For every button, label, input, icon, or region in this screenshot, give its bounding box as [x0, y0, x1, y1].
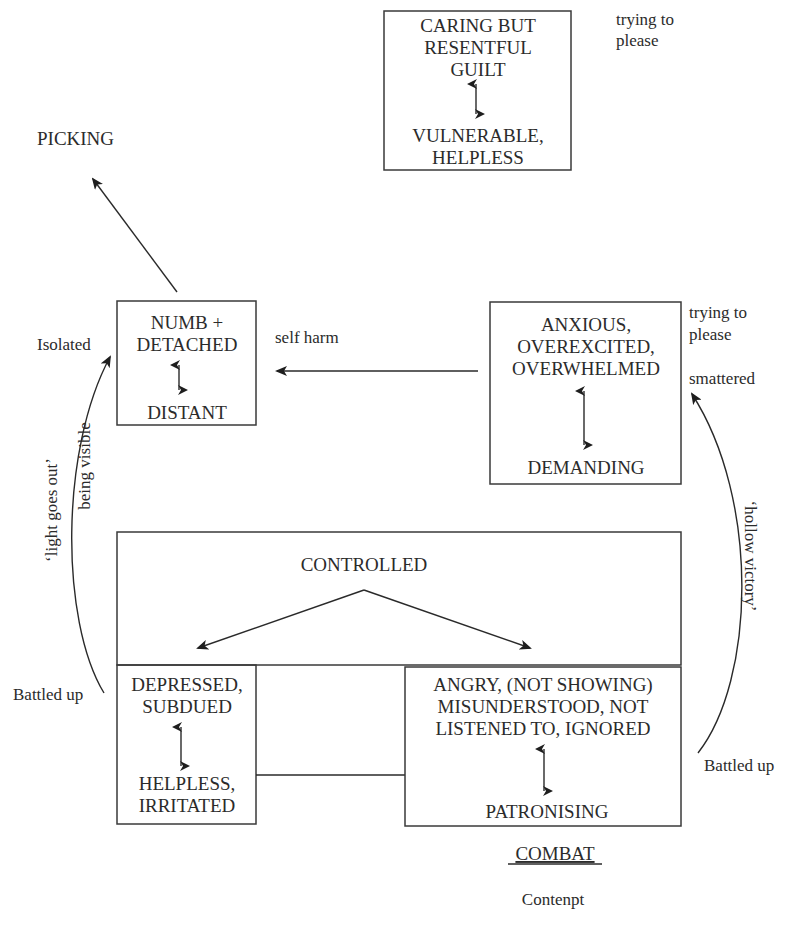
note-trying-to-please-top: trying to: [616, 10, 674, 29]
label-self-harm: self harm: [275, 328, 339, 347]
label-light-goes-out: ‘light goes out’: [42, 458, 61, 562]
note-trying-to-please-2: please: [689, 325, 731, 344]
box-line: IRRITATED: [139, 795, 236, 816]
arrow-controlled-to-angry: [364, 590, 530, 648]
box-line: ANXIOUS,: [541, 314, 631, 335]
emotion-cycle-diagram: CARING BUT RESENTFUL GUILT VULNERABLE, H…: [0, 0, 807, 931]
box-depressed-subdued: DEPRESSED, SUBDUED HELPLESS, IRRITATED: [117, 665, 256, 824]
curved-arrow-left: [72, 357, 110, 693]
box-line: DEPRESSED,: [131, 674, 242, 695]
box-line: DEMANDING: [527, 457, 644, 478]
curved-arrow-right: [692, 394, 742, 753]
box-caring-guilt: CARING BUT RESENTFUL GUILT VULNERABLE, H…: [384, 11, 571, 170]
label-battled-up-right: Battled up: [704, 756, 774, 775]
note-trying-to-please-top-2: please: [616, 31, 658, 50]
label-hollow-victory: ‘hollow victory’: [741, 501, 760, 612]
box-line: ANGRY, (NOT SHOWING): [433, 674, 652, 696]
box-line: VULNERABLE,: [412, 125, 543, 146]
label-combat: COMBAT: [515, 843, 595, 864]
box-line: LISTENED TO, IGNORED: [435, 718, 650, 739]
box-line: SUBDUED: [142, 696, 232, 717]
arrow-controlled-to-depressed: [198, 590, 364, 648]
box-anxious-overwhelmed: ANXIOUS, OVEREXCITED, OVERWHELMED DEMAND…: [490, 302, 681, 484]
box-line: NUMB +: [151, 312, 223, 333]
box-line: DETACHED: [137, 334, 238, 355]
box-line: PATRONISING: [486, 801, 609, 822]
label-isolated: Isolated: [37, 335, 91, 354]
label-contempt: Contenpt: [522, 890, 585, 909]
box-controlled: CONTROLLED: [117, 532, 681, 665]
box-line: HELPLESS: [432, 147, 524, 168]
label-being-visible: being visible: [75, 422, 94, 509]
box-border: [117, 532, 681, 665]
box-line: MISUNDERSTOOD, NOT: [438, 696, 649, 717]
note-smattered: smattered: [689, 369, 756, 388]
note-trying-to-please: trying to: [689, 303, 747, 322]
box-line: GUILT: [450, 59, 506, 80]
label-battled-up-left: Battled up: [13, 685, 83, 704]
box-line: OVERWHELMED: [512, 358, 660, 379]
box-angry-misunderstood: ANGRY, (NOT SHOWING) MISUNDERSTOOD, NOT …: [405, 667, 681, 826]
box-line: OVEREXCITED,: [517, 336, 655, 357]
box-line: DISTANT: [147, 402, 227, 423]
arrow-to-picking: [93, 179, 177, 292]
box-line: HELPLESS,: [139, 773, 236, 794]
box-line: CARING BUT: [420, 15, 536, 36]
label-picking: PICKING: [37, 128, 114, 149]
box-line: RESENTFUL: [424, 37, 532, 58]
label-controlled: CONTROLLED: [301, 554, 428, 575]
box-numb-detached: NUMB + DETACHED DISTANT: [117, 301, 256, 425]
